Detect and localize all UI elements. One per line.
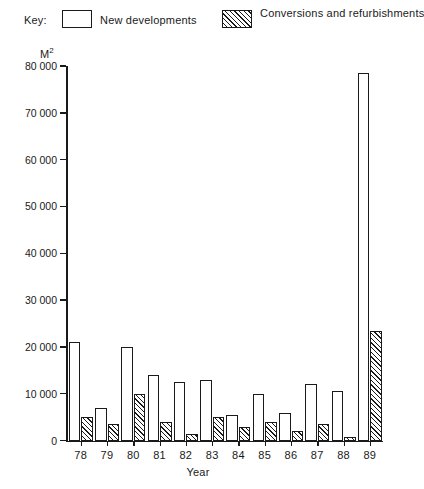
bar-conversions-84 <box>239 427 251 441</box>
x-axis-label-87: 87 <box>304 449 330 461</box>
x-axis-tick <box>291 441 292 446</box>
x-axis-tick <box>370 441 371 446</box>
bar-conversions-89 <box>370 331 382 441</box>
x-axis-label-78: 78 <box>68 449 94 461</box>
y-axis-tick <box>60 299 66 300</box>
bar-conversions-83 <box>213 417 225 440</box>
y-axis-tick <box>60 206 66 207</box>
bar-conversions-88 <box>344 437 356 441</box>
y-axis-tick-label: 60 000 <box>25 154 57 166</box>
y-axis-unit-label: M2 <box>40 46 54 60</box>
y-axis-tick-label: 70 000 <box>25 107 57 119</box>
y-axis-tick-label: 20 000 <box>25 341 57 353</box>
x-axis-label-88: 88 <box>331 449 357 461</box>
y-axis-tick-label: 40 000 <box>25 247 57 259</box>
x-axis-tick <box>186 441 187 446</box>
bar-new-developments-81 <box>148 375 160 441</box>
bar-conversions-85 <box>265 422 277 441</box>
y-axis-tick <box>60 393 66 394</box>
y-axis-tick-label: 0 <box>51 435 57 447</box>
x-axis-tick <box>265 441 266 446</box>
bar-conversions-78 <box>81 417 93 440</box>
bar-new-developments-83 <box>200 380 212 441</box>
x-axis-label-81: 81 <box>147 449 173 461</box>
y-axis-line <box>66 66 68 442</box>
bar-new-developments-86 <box>279 413 291 441</box>
x-axis-label-89: 89 <box>357 449 383 461</box>
bar-new-developments-85 <box>253 394 265 441</box>
y-axis-tick <box>60 112 66 113</box>
y-axis-tick <box>60 65 66 66</box>
y-axis-tick <box>60 253 66 254</box>
x-axis-tick <box>212 441 213 446</box>
x-axis-tick <box>81 441 82 446</box>
bar-new-developments-78 <box>69 342 81 440</box>
x-axis-tick <box>344 441 345 446</box>
y-axis-tick <box>60 440 66 441</box>
bar-new-developments-84 <box>226 415 238 441</box>
x-axis-label-83: 83 <box>199 449 225 461</box>
bar-conversions-87 <box>318 424 330 440</box>
x-axis-tick <box>160 441 161 446</box>
y-axis-unit-text: M <box>40 48 49 60</box>
bar-new-developments-87 <box>305 384 317 440</box>
x-axis-tick <box>107 441 108 446</box>
y-axis-tick-label: 80 000 <box>25 60 57 72</box>
x-axis-tick <box>238 441 239 446</box>
x-axis-tick <box>317 441 318 446</box>
bar-conversions-82 <box>186 434 198 441</box>
bar-conversions-81 <box>160 422 172 441</box>
bar-conversions-86 <box>292 431 304 440</box>
bar-conversions-80 <box>134 394 146 441</box>
x-axis-label-80: 80 <box>120 449 146 461</box>
x-axis-tick <box>133 441 134 446</box>
y-axis-unit-exponent: 2 <box>49 46 53 55</box>
bar-conversions-79 <box>108 424 120 440</box>
y-axis-tick <box>60 346 66 347</box>
bar-new-developments-88 <box>332 391 344 440</box>
bar-new-developments-80 <box>121 347 133 441</box>
bar-new-developments-79 <box>95 408 107 441</box>
x-axis-label-84: 84 <box>225 449 251 461</box>
y-axis-tick-label: 30 000 <box>25 294 57 306</box>
x-axis-label-86: 86 <box>278 449 304 461</box>
y-axis-tick-label: 10 000 <box>25 388 57 400</box>
bar-new-developments-89 <box>358 73 370 441</box>
x-axis-line <box>66 441 383 443</box>
x-axis-title: Year <box>0 466 396 478</box>
y-axis-tick-label: 50 000 <box>25 200 57 212</box>
x-axis-label-79: 79 <box>94 449 120 461</box>
x-axis-label-82: 82 <box>173 449 199 461</box>
y-axis-tick <box>60 159 66 160</box>
bar-new-developments-82 <box>174 382 186 441</box>
x-axis-label-85: 85 <box>252 449 278 461</box>
